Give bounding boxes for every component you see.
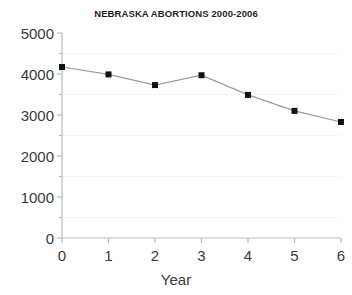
x-axis-tick-label: 5 bbox=[280, 248, 310, 263]
data-point-marker bbox=[59, 64, 65, 70]
data-point-marker bbox=[338, 119, 344, 125]
x-axis-tick-label: 2 bbox=[140, 248, 170, 263]
data-point-marker bbox=[292, 108, 298, 114]
x-axis-tick-label: 4 bbox=[233, 248, 263, 263]
data-point-marker bbox=[199, 72, 205, 78]
y-axis-tick-label-text: 1000 bbox=[10, 190, 54, 205]
y-axis-tick-label-text: 4000 bbox=[10, 67, 54, 82]
y-axis-tick-label-text: 3000 bbox=[10, 108, 54, 123]
y-axis-ticks bbox=[57, 33, 62, 238]
x-axis-tick-label: 1 bbox=[94, 248, 124, 263]
x-axis-tick-label: 6 bbox=[326, 248, 352, 263]
x-axis-title: Year bbox=[0, 271, 352, 288]
x-axis-tick-label: 0 bbox=[47, 248, 77, 263]
data-series bbox=[59, 64, 344, 125]
y-axis-tick-label-text: 5000 bbox=[10, 26, 54, 41]
y-axis-tick-label-text: 2000 bbox=[10, 149, 54, 164]
y-axis-tick-label-text: 0 bbox=[10, 231, 54, 246]
data-point-marker bbox=[152, 82, 158, 88]
x-axis-ticks bbox=[62, 238, 341, 243]
data-point-marker bbox=[106, 71, 112, 77]
x-axis-tick-label: 3 bbox=[187, 248, 217, 263]
data-point-marker bbox=[245, 92, 251, 98]
chart-container: NEBRASKA ABORTIONS 2000-2006 01000200030… bbox=[0, 0, 352, 295]
